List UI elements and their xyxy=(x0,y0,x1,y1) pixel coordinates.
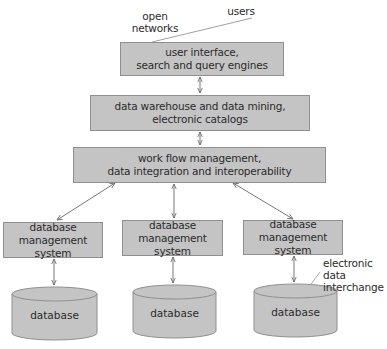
open-networks-line1: open xyxy=(125,10,185,22)
box-text-line2: system xyxy=(35,247,72,260)
box-text-line2: electronic catalogs xyxy=(152,113,247,126)
users-label: users xyxy=(216,5,266,17)
database-label-3: database xyxy=(254,306,337,318)
box-text-line1: user interface, xyxy=(165,46,238,59)
edi-line2: interchange xyxy=(323,281,387,293)
dbms-box-1: database management system xyxy=(3,222,103,258)
workflow-management-box: work flow management, data integration a… xyxy=(73,147,326,183)
dbms-box-3: database management system xyxy=(243,220,343,255)
box-text-line1: work flow management, xyxy=(138,152,261,165)
open-networks-label: open networks xyxy=(125,10,185,34)
box-text-line2: data integration and interoperability xyxy=(108,165,292,178)
box-text-line1: data warehouse and data mining, xyxy=(115,100,286,113)
box-text-line2: system xyxy=(154,245,191,258)
dbms-box-2: database management system xyxy=(122,220,223,256)
edi-label: electronic data interchange xyxy=(323,257,387,293)
database-label-1: database xyxy=(12,309,97,321)
box-text-line2: system xyxy=(275,244,312,257)
box-text-line2: search and query engines xyxy=(136,59,267,72)
user-interface-box: user interface, search and query engines xyxy=(120,42,284,76)
box-text-line1: database management xyxy=(4,221,102,247)
open-networks-line2: networks xyxy=(125,22,185,34)
box-text-line1: database management xyxy=(123,219,222,245)
database-label-2: database xyxy=(133,307,216,319)
data-warehouse-box: data warehouse and data mining, electron… xyxy=(90,95,310,131)
box-text-line1: database management xyxy=(244,218,342,244)
edi-line1: electronic data xyxy=(323,257,387,281)
